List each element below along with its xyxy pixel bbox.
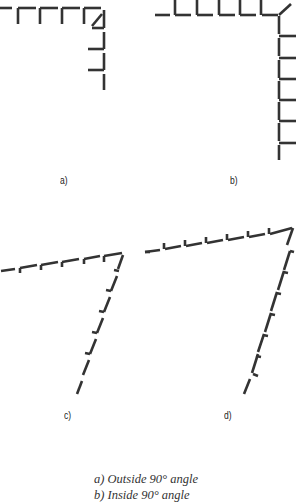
panel-a-label: a) xyxy=(60,175,68,186)
panel-d-drawing xyxy=(145,228,294,394)
panel-a-drawing xyxy=(0,8,104,90)
panel-b-drawing xyxy=(155,0,296,160)
panel-c-label: c) xyxy=(64,410,71,421)
panel-c-drawing xyxy=(1,252,150,394)
panel-d-label: d) xyxy=(224,410,232,421)
caption-line-a: a) Outside 90° angle xyxy=(94,472,198,487)
caption-line-b: b) Inside 90° angle xyxy=(94,488,190,503)
panel-b-label: b) xyxy=(230,175,238,186)
